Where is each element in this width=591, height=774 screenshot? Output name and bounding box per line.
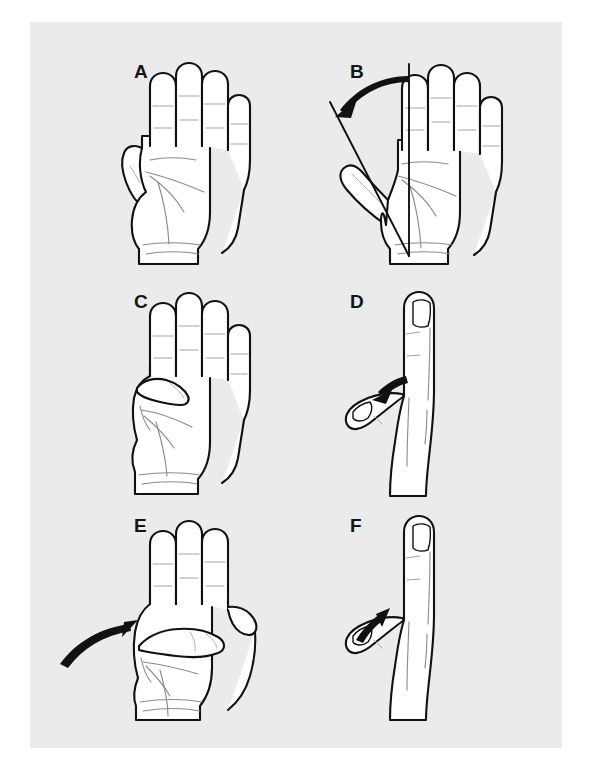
panel-a: A [38, 40, 283, 270]
hand-illustration-e [38, 494, 283, 724]
panel-e: E [38, 494, 283, 724]
figure-plate: A [30, 22, 562, 748]
hand-illustration-b [278, 40, 523, 270]
panel-c: C [38, 270, 283, 500]
panel-b: B [278, 40, 523, 270]
angle-arc-arrow [335, 76, 409, 118]
motion-arrow-opposition [60, 620, 138, 668]
hand-illustration-a [38, 40, 283, 270]
panel-d: D [278, 270, 523, 500]
figure-root: A [0, 0, 591, 774]
hand-illustration-d [278, 270, 523, 500]
hand-illustration-f [278, 494, 523, 724]
panel-f: F [278, 494, 523, 724]
hand-illustration-c [38, 270, 283, 500]
